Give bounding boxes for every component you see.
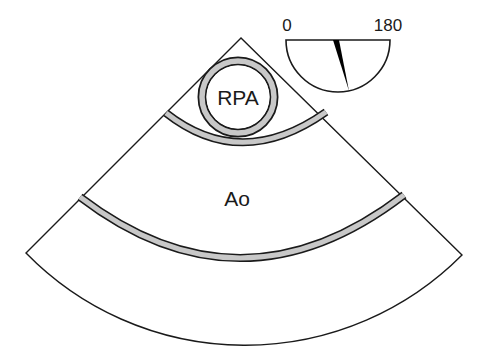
angle-min-label: 0 xyxy=(282,16,291,35)
ao-label: Ao xyxy=(224,187,250,210)
angle-indicator: 0 180 xyxy=(282,16,402,92)
angle-max-label: 180 xyxy=(374,16,402,35)
rpa-label: RPA xyxy=(217,86,259,109)
echo-diagram: RPA Ao 0 180 xyxy=(0,0,481,361)
